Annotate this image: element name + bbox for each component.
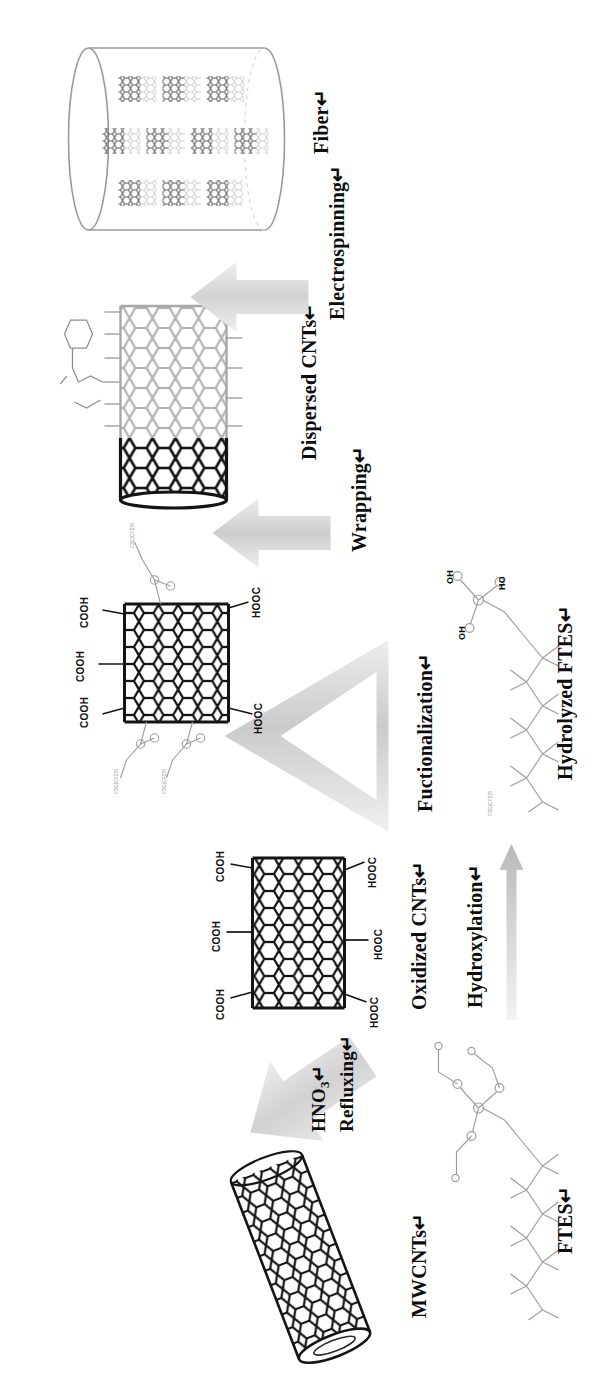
stage-oxidized-cnts <box>200 814 390 1044</box>
functionalized-cnt-illustration <box>60 530 280 800</box>
electrospinning-arrow-shape <box>186 260 312 334</box>
oxidized-cnt-illustration <box>200 814 390 1044</box>
atom-label-oh-2: OH <box>444 570 454 584</box>
arrow-label-electrospinning: Electrospinning↵ <box>324 165 348 320</box>
stage-functionalized-cnts <box>60 530 280 800</box>
process-diagram: MWCNTs↵ HNO3↵ Refluxing↵ <box>0 0 603 1400</box>
chem-group-cooh-3: COOH <box>214 851 225 882</box>
chem-func-hooc-1: HOOC <box>252 703 263 734</box>
chem-group-hooc-2: HOOC <box>372 929 383 960</box>
reagent-label-ftes: FTES↵ <box>552 1186 576 1254</box>
arrow-electrospinning <box>186 260 312 334</box>
hno3-pilcrow: ↵ <box>307 1065 328 1081</box>
stage-label-fiber: Fiber↵ <box>308 89 332 154</box>
hno3-subscript: 3 <box>317 1081 332 1088</box>
arrow-hydroxylation <box>498 844 524 1020</box>
chem-group-cooh-2: COOH <box>210 921 221 952</box>
mwcnt-illustration <box>200 1132 400 1382</box>
silane-tag-3: F3C(CF2)5 <box>128 523 134 548</box>
silane-tag-1: F3C(CF2)5 <box>112 769 118 794</box>
stage-label-oxidized-cnts: Oxidized CNTs↵ <box>406 860 430 1010</box>
chem-group-hooc-1: HOOC <box>368 997 379 1028</box>
hydrolyzed-ftes-tag: F3C(CF2)5 <box>486 791 492 816</box>
arrow-label-refluxing: Refluxing↵ <box>334 1035 357 1132</box>
arrow-label-wrapping: Wrapping↵ <box>346 446 370 552</box>
hno3-text: HNO <box>307 1088 328 1132</box>
chem-group-hooc-3: HOOC <box>366 857 377 888</box>
chem-func-cooh-2: COOH <box>74 651 85 682</box>
chem-func-cooh-3: COOH <box>78 597 89 628</box>
chem-func-hooc-2: HOOC <box>250 587 261 618</box>
fiber-cylinder-illustration <box>66 10 296 260</box>
stage-label-mwcnts: MWCNTs↵ <box>406 1213 430 1318</box>
stage-mwcnts <box>200 1132 400 1382</box>
chem-func-cooh-1: COOH <box>78 697 89 728</box>
arrow-label-hydroxylation: Hydroxylation↵ <box>462 864 486 1008</box>
arrow-label-hno3: HNO3↵ <box>306 1065 333 1132</box>
chem-group-cooh-1: COOH <box>214 989 225 1020</box>
reagent-ftes <box>430 1020 580 1320</box>
hydroxylation-arrow-shape <box>498 844 524 1020</box>
stage-fiber <box>66 10 296 260</box>
reagent-label-hydrolyzed-ftes: Hydrolyzed FTES↵ <box>552 605 576 780</box>
ftes-structure <box>430 1020 580 1320</box>
silane-tag-2: F3C(CF2)5 <box>160 769 166 794</box>
atom-label-oh-1: OH <box>456 626 466 640</box>
atom-label-ho: HO <box>496 576 506 590</box>
